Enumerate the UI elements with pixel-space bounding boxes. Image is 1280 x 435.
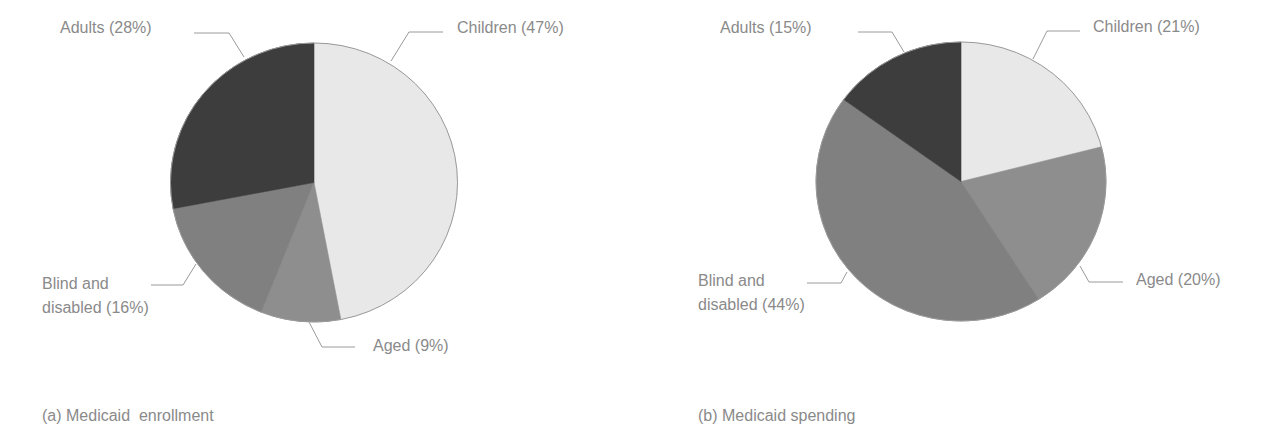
label-blind-disabled-spending-line2: disabled (44%) bbox=[698, 293, 805, 317]
pie-slice-children bbox=[314, 43, 458, 320]
label-blind-disabled-enrollment-line2: disabled (16%) bbox=[42, 296, 149, 320]
label-blind-disabled-spending-line1: Blind and bbox=[698, 269, 765, 293]
leader-line-aged bbox=[309, 322, 355, 347]
label-children-enrollment: Children (47%) bbox=[457, 16, 564, 40]
caption-enrollment: (a) Medicaid enrollment bbox=[42, 406, 214, 426]
leader-line-children bbox=[1033, 31, 1080, 59]
leader-line-blind-disabled bbox=[151, 264, 196, 285]
leader-line-children bbox=[391, 32, 443, 61]
pie-chart-enrollment bbox=[170, 43, 457, 322]
leader-line-adults bbox=[194, 33, 244, 57]
pie-chart-spending bbox=[816, 42, 1106, 321]
leader-line-adults bbox=[858, 32, 904, 52]
pie-charts-canvas bbox=[0, 0, 1280, 435]
figure: Adults (28%) Children (47%) Blind and di… bbox=[0, 0, 1280, 435]
label-blind-disabled-enrollment-line1: Blind and bbox=[42, 272, 109, 296]
label-aged-spending: Aged (20%) bbox=[1136, 268, 1221, 292]
label-children-spending: Children (21%) bbox=[1093, 15, 1200, 39]
label-aged-enrollment: Aged (9%) bbox=[373, 334, 449, 358]
caption-spending: (b) Medicaid spending bbox=[698, 406, 855, 426]
pie-slice-adults bbox=[170, 43, 314, 209]
label-adults-enrollment: Adults (28%) bbox=[60, 16, 152, 40]
leader-line-aged bbox=[1080, 266, 1123, 282]
leader-line-blind-disabled bbox=[807, 272, 847, 283]
label-adults-spending: Adults (15%) bbox=[720, 16, 812, 40]
